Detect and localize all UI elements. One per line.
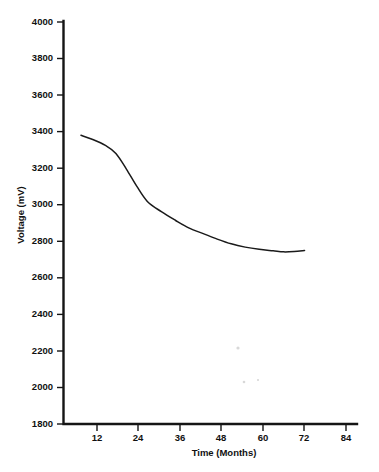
- ytick-label-2800: 2800: [32, 235, 53, 246]
- xtick-label-12: 12: [92, 432, 103, 443]
- ytick-label-3600: 3600: [32, 89, 53, 100]
- ytick-label-2600: 2600: [32, 271, 53, 282]
- ytick-label-3800: 3800: [32, 52, 53, 63]
- scan-artifacts: [236, 346, 259, 383]
- y-axis-title: Voltage (mV): [15, 186, 26, 243]
- ytick-label-2000: 2000: [32, 381, 53, 392]
- ytick-label-1800: 1800: [32, 418, 53, 429]
- ytick-label-3000: 3000: [32, 198, 53, 209]
- ytick-label-3400: 3400: [32, 125, 53, 136]
- xtick-label-84: 84: [341, 432, 352, 443]
- xtick-label-36: 36: [175, 432, 186, 443]
- x-axis-title: Time (Months): [192, 447, 257, 458]
- ytick-label-4000: 4000: [32, 16, 53, 27]
- xtick-label-24: 24: [133, 432, 144, 443]
- y-tick-marks: [57, 22, 63, 424]
- voltage-series-line: [81, 135, 305, 252]
- chart-canvas: 4000 3800 3600 3400 3200 3000 2800 2600 …: [0, 0, 379, 472]
- xtick-label-72: 72: [299, 432, 310, 443]
- xtick-label-48: 48: [216, 432, 227, 443]
- xtick-label-60: 60: [258, 432, 269, 443]
- voltage-decay-chart: 4000 3800 3600 3400 3200 3000 2800 2600 …: [0, 0, 379, 472]
- axis-lines: [64, 21, 358, 424]
- ytick-label-3200: 3200: [32, 162, 53, 173]
- ytick-label-2400: 2400: [32, 308, 53, 319]
- ytick-label-2200: 2200: [32, 345, 53, 356]
